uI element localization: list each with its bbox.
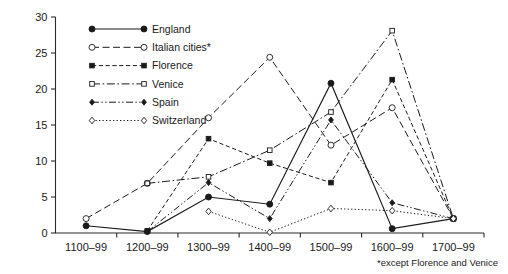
data-point-switzerland-130099 bbox=[206, 208, 211, 215]
x-axis-tick-label: 1500–99 bbox=[310, 241, 353, 253]
x-axis-tick-label: 1600–99 bbox=[371, 241, 414, 253]
y-axis-tick-label: 10 bbox=[35, 155, 47, 167]
x-axis-tick-label: 1100–99 bbox=[65, 241, 107, 253]
data-point-spain-140099 bbox=[267, 216, 272, 222]
legend-label-4: Spain bbox=[152, 96, 179, 108]
data-point-venice-150099 bbox=[329, 110, 334, 115]
legend-marker-end-2 bbox=[142, 63, 147, 68]
data-point-venice-140099 bbox=[267, 148, 272, 153]
legend-marker-start-3 bbox=[90, 82, 95, 87]
data-point-italian-cities--140099 bbox=[267, 54, 273, 60]
legend-marker-end-1 bbox=[141, 44, 147, 50]
legend-label-0: England bbox=[152, 23, 191, 35]
x-axis-tick-label: 1300–99 bbox=[187, 241, 230, 253]
y-axis-tick-label: 30 bbox=[35, 11, 47, 23]
legend-marker-start-5 bbox=[89, 117, 94, 124]
data-point-florence-140099 bbox=[267, 161, 272, 166]
data-point-england-140099 bbox=[267, 201, 273, 207]
data-point-england-110099 bbox=[83, 223, 89, 229]
data-point-italian-cities--160099 bbox=[389, 105, 395, 111]
data-point-england-150099 bbox=[328, 80, 334, 86]
data-point-switzerland-150099 bbox=[328, 205, 333, 212]
data-point-spain-150099 bbox=[329, 117, 334, 123]
y-axis-tick-label: 20 bbox=[35, 83, 47, 95]
chart-figure: 0510152025301100–991200–991300–991400–99… bbox=[0, 0, 508, 274]
series-line-italian-cities- bbox=[86, 57, 453, 218]
legend-marker-start-0 bbox=[89, 26, 95, 32]
y-axis-tick-label: 5 bbox=[41, 191, 47, 203]
data-point-england-130099 bbox=[206, 194, 212, 200]
data-point-venice-160099 bbox=[390, 28, 395, 33]
data-point-venice-120099 bbox=[145, 181, 150, 186]
line-chart-canvas: 0510152025301100–991200–991300–991400–99… bbox=[0, 0, 508, 274]
chart-axes bbox=[56, 17, 485, 233]
chart-footnote: *except Florence and Venice bbox=[377, 257, 498, 268]
legend-label-2: Florence bbox=[152, 59, 193, 71]
legend-label-3: Venice bbox=[152, 78, 184, 90]
legend-marker-end-4 bbox=[142, 99, 147, 105]
y-axis-tick-label: 15 bbox=[35, 119, 47, 131]
data-point-italian-cities--110099 bbox=[83, 216, 89, 222]
legend-marker-end-3 bbox=[142, 82, 147, 87]
data-point-italian-cities--130099 bbox=[206, 115, 212, 121]
data-point-switzerland-140099 bbox=[267, 229, 272, 236]
legend-label-1: Italian cities* bbox=[152, 41, 211, 53]
data-point-florence-150099 bbox=[329, 180, 334, 185]
data-point-venice-130099 bbox=[206, 175, 211, 180]
legend-marker-start-4 bbox=[90, 99, 95, 105]
data-point-spain-160099 bbox=[390, 200, 395, 206]
y-axis-tick-label: 0 bbox=[41, 227, 47, 239]
x-axis-tick-label: 1200–99 bbox=[126, 241, 169, 253]
legend-marker-end-0 bbox=[141, 26, 147, 32]
data-point-spain-130099 bbox=[206, 180, 211, 186]
legend-marker-start-1 bbox=[89, 44, 95, 50]
x-axis-tick-label: 1700–99 bbox=[432, 241, 475, 253]
data-point-england-160099 bbox=[389, 226, 395, 232]
data-point-florence-160099 bbox=[390, 77, 395, 82]
legend-label-5: Switzerland bbox=[152, 114, 206, 126]
series-line-england bbox=[86, 83, 453, 231]
series-line-florence bbox=[147, 80, 453, 231]
data-point-switzerland-160099 bbox=[389, 207, 394, 214]
legend-marker-start-2 bbox=[90, 63, 95, 68]
series-line-spain bbox=[147, 120, 453, 232]
data-point-italian-cities--150099 bbox=[328, 142, 334, 148]
y-axis-tick-label: 25 bbox=[35, 47, 47, 59]
legend-marker-end-5 bbox=[141, 117, 146, 124]
x-axis-tick-label: 1400–99 bbox=[248, 241, 291, 253]
data-point-florence-130099 bbox=[206, 136, 211, 141]
